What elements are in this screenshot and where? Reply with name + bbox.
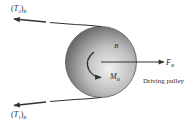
tension-bottom-label: (T1)B bbox=[11, 111, 26, 120]
tension-top-label: (T2)B bbox=[11, 5, 26, 14]
force-label: FB bbox=[166, 59, 174, 68]
pulley-label: B bbox=[114, 43, 118, 50]
belt-bottom bbox=[14, 98, 101, 106]
moment-label: MB bbox=[110, 73, 120, 82]
caption-label: Driving pulley bbox=[143, 78, 184, 85]
pulley-diagram: (T2)B (T1)B B MB FB Driving pulley bbox=[0, 0, 195, 126]
belt-top bbox=[14, 19, 101, 27]
